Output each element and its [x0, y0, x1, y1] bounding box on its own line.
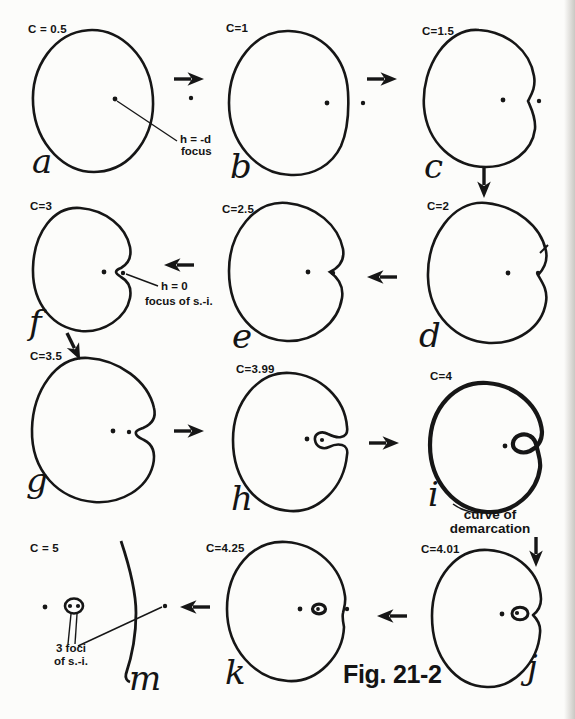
- focus-dot: [127, 430, 131, 434]
- annotation-demarcation: curve of demarcation: [440, 508, 540, 535]
- arrow-demarcation-to-j: [529, 537, 543, 567]
- c-label-k: C=4.25: [206, 542, 245, 554]
- arrow-h-to-i: [369, 436, 399, 450]
- c-label-j: C=4.01: [421, 543, 460, 555]
- focus-dot: [536, 271, 540, 275]
- focus-dot: [501, 98, 506, 103]
- arrow-a-to-b: [174, 72, 204, 86]
- focus-dot: [306, 270, 311, 275]
- panel-f-curve: [33, 208, 158, 331]
- focus-dot: [320, 438, 324, 442]
- c-label-f: C=3: [30, 200, 52, 212]
- focus-dot: [316, 607, 320, 611]
- panel-letter-j: j: [527, 650, 538, 684]
- arrow-c-to-d: [477, 168, 491, 198]
- focus-dot: [515, 611, 519, 615]
- leader-line-foci: [78, 607, 162, 646]
- arrow-g-to-h: [174, 424, 204, 438]
- c-label-g: C=3.5: [30, 350, 62, 362]
- panel-g-curve: [32, 358, 155, 502]
- focus-dot: [43, 605, 48, 610]
- arrow-b-to-c: [367, 72, 397, 86]
- focus-dot: [189, 96, 193, 100]
- panel-letter-f: f: [29, 305, 42, 339]
- curves-canvas: [0, 0, 575, 719]
- annotation-foci-m-line2: of s.-i.: [54, 655, 88, 667]
- focus-dot: [361, 101, 365, 105]
- annotation-foci-m-line1: 3 foci: [56, 642, 86, 654]
- c-label-i: C=4: [430, 370, 452, 382]
- panel-letter-c: c: [424, 149, 443, 183]
- focus-dot: [325, 101, 330, 106]
- page-edge-shadow: [564, 0, 575, 719]
- c-label-e: C=2.5: [222, 203, 254, 215]
- panel-letter-g: g: [26, 463, 48, 497]
- focus-dot: [500, 612, 505, 617]
- c-label-b: C=1: [226, 22, 248, 34]
- focus-dot: [113, 97, 118, 102]
- panel-letter-i: i: [428, 477, 439, 511]
- focus-dot: [506, 271, 511, 276]
- arrow-d-to-e: [367, 270, 397, 284]
- panel-letter-e: e: [232, 319, 252, 353]
- c-label-h: C=3.99: [236, 363, 275, 375]
- focus-dot: [537, 99, 541, 103]
- focus-dot: [111, 429, 116, 434]
- panel-letter-h: h: [231, 481, 253, 515]
- leader-line-foci: [68, 614, 71, 644]
- panel-d-curve: [428, 203, 548, 343]
- c-label-d: C=2: [427, 200, 449, 212]
- leader-line-foci: [75, 614, 77, 644]
- c-label-c: C=1.5: [422, 25, 454, 37]
- leader-line-focus-f: [126, 274, 158, 286]
- arrow-j-to-k: [377, 609, 407, 623]
- panel-letter-m: m: [129, 661, 161, 695]
- focus-dot: [503, 444, 508, 449]
- focus-dot: [68, 604, 72, 608]
- c-label-a: C = 0.5: [28, 23, 67, 35]
- figure-caption: Fig. 21-2: [343, 660, 442, 689]
- panel-a-curve: [28, 26, 193, 176]
- panel-letter-d: d: [419, 318, 441, 352]
- figure-21-2: C = 0.5 C=1 C=1.5 C=2 C=2.5 C=3 C=3.5 C=…: [0, 0, 575, 719]
- focus-dot: [121, 271, 125, 275]
- c-label-m: C = 5: [30, 542, 59, 554]
- panel-i-curve: [430, 383, 542, 513]
- annotation-focus-f-line2: focus of s.-i.: [145, 295, 213, 307]
- arrow-k-to-m: [180, 600, 210, 614]
- panel-letter-a: a: [32, 144, 52, 178]
- focus-dot: [163, 604, 167, 608]
- panel-letter-k: k: [225, 655, 246, 689]
- annotation-demarcation-line1: curve of: [440, 508, 540, 522]
- inner-loop: [65, 599, 83, 614]
- panel-j-curve: [432, 550, 541, 687]
- focus-dot: [331, 271, 335, 275]
- focus-dot: [305, 437, 310, 442]
- focus-dot: [76, 604, 80, 608]
- annotation-focus-a-line2: focus: [181, 145, 212, 157]
- inner-loop: [512, 607, 528, 620]
- annotation-focus-f-line1: h = 0: [161, 280, 188, 292]
- focus-dot: [298, 607, 303, 612]
- focus-dot: [102, 270, 107, 275]
- arrow-e-to-f: [164, 258, 194, 272]
- annotation-focus-a-line1: h = -d: [180, 133, 211, 145]
- annotation-demarcation-line2: demarcation: [440, 522, 540, 536]
- panel-letter-b: b: [230, 149, 252, 183]
- focus-dot: [345, 607, 349, 611]
